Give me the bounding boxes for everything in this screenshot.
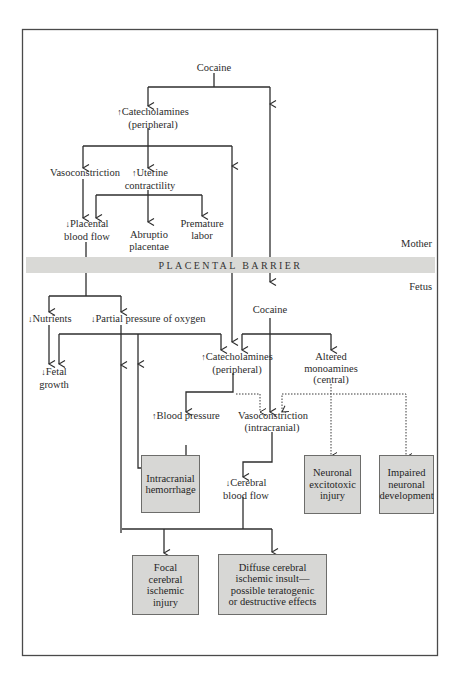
node-text: Fetal (46, 366, 67, 377)
placental-barrier-label: PLACENTAL BARRIER (159, 260, 303, 271)
outcome-focal-cerebral-ischemic-injury: Focal cerebral ischemic injury (132, 555, 199, 615)
node-cerebral-blood-flow: ↓Cerebral blood flow (222, 477, 270, 501)
node-text: contractility (125, 180, 176, 191)
node-text: Abruptio (130, 229, 168, 240)
node-text: (intracranial) (245, 422, 300, 433)
node-text: Cerebral (230, 477, 266, 488)
node-vasoconstriction-mother: Vasoconstriction (50, 167, 120, 179)
outcome-text: Diffuse cerebral ischemic insult— possib… (229, 562, 317, 608)
region-label-mother: Mother (380, 238, 432, 250)
node-text: blood flow (223, 490, 269, 501)
node-nutrients: ↓Nutrients (28, 313, 72, 326)
node-altered-monoamines: Altered monoamines (central) (300, 351, 362, 386)
node-text: labor (191, 230, 213, 241)
node-text: Uterine (137, 167, 169, 178)
node-text: blood flow (64, 231, 110, 242)
node-cocaine-mother: Cocaine (184, 62, 244, 74)
placental-barrier-band: PLACENTAL BARRIER (26, 257, 435, 273)
node-text: Nutrients (33, 313, 72, 324)
node-premature-labor: Premature labor (176, 218, 228, 241)
node-text: (peripheral) (128, 119, 178, 130)
node-text: (central) (313, 374, 349, 385)
outcome-diffuse-cerebral-ischemic-insult: Diffuse cerebral ischemic insult— possib… (218, 554, 327, 615)
node-text: monoamines (304, 363, 358, 374)
node-text: Altered (315, 351, 347, 362)
node-text: Placental (70, 218, 108, 229)
node-text: Blood pressure (157, 410, 220, 421)
node-partial-pressure-oxygen: ↓Partial pressure of oxygen (91, 313, 205, 326)
node-text: Catecholamines (122, 106, 189, 117)
node-abruptio-placentae: Abruptio placentae (122, 229, 176, 252)
outcome-impaired-neuronal-development: Impaired neuronal development (379, 455, 434, 514)
region-label-fetus: Fetus (380, 281, 432, 293)
node-catecholamines-fetus: ↑Catecholamines (peripheral) (192, 351, 282, 375)
node-vasoconstriction-intracranial: Vasoconstriction (intracranial) (238, 410, 306, 433)
node-fetal-growth: ↓Fetal growth (34, 366, 74, 390)
node-text: placentae (129, 241, 169, 252)
node-catecholamines-mother: ↑Catecholamines (peripheral) (108, 106, 198, 130)
node-text: Partial pressure of oxygen (96, 313, 206, 324)
outcome-text: Focal cerebral ischemic injury (147, 562, 184, 608)
outcome-text: Intracranial hemorrhage (145, 473, 195, 496)
node-text: (peripheral) (212, 364, 262, 375)
node-blood-pressure: ↑Blood pressure (152, 410, 220, 423)
node-uterine-contractility: ↑Uterine contractility (118, 167, 182, 191)
node-text: Catecholamines (206, 351, 273, 362)
outcome-neuronal-excitotoxic-injury: Neuronal excitotoxic injury (304, 455, 361, 514)
outcome-text: Neuronal excitotoxic injury (309, 467, 356, 502)
node-text: Premature (180, 218, 223, 229)
node-text: growth (39, 379, 69, 390)
node-text: Vasoconstriction (238, 410, 308, 421)
node-cocaine-fetus: Cocaine (248, 304, 292, 316)
outcome-text: Impaired neuronal development (379, 467, 433, 502)
outcome-intracranial-hemorrhage: Intracranial hemorrhage (141, 455, 200, 513)
node-placental-blood-flow: ↓Placental blood flow (56, 218, 118, 242)
